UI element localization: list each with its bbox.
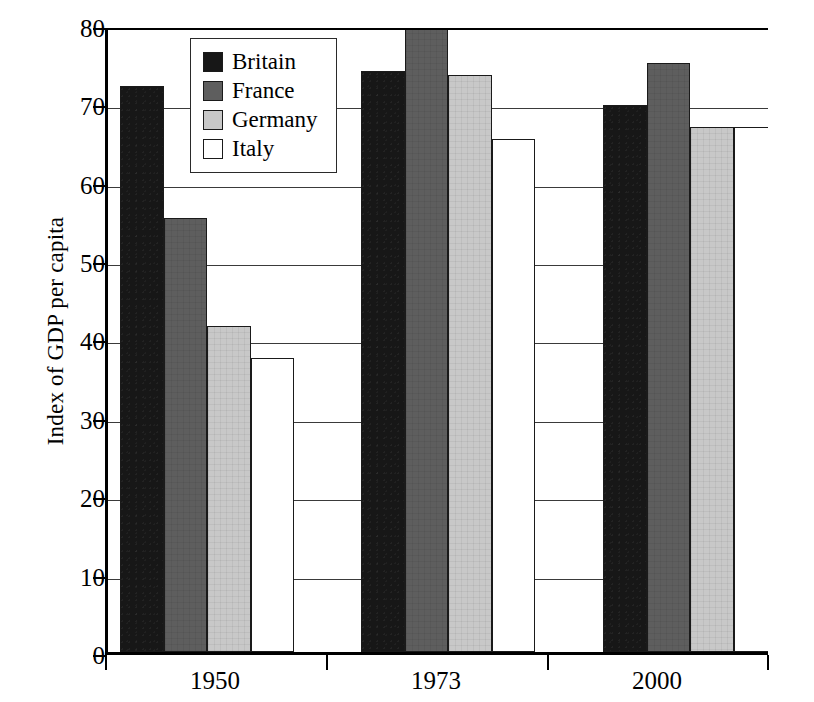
legend-item-italy: Italy bbox=[203, 134, 326, 163]
legend-item-france: France bbox=[203, 76, 326, 105]
y-tick-label: 70 bbox=[43, 94, 105, 119]
bar-italy-2000 bbox=[734, 127, 769, 652]
y-tick-label: 20 bbox=[43, 486, 105, 511]
legend-swatch-britain-icon bbox=[203, 52, 223, 72]
y-tick-label: 40 bbox=[43, 329, 105, 354]
bar-italy-1950 bbox=[251, 358, 295, 652]
bar-germany-2000 bbox=[690, 127, 734, 652]
bar-france-1950 bbox=[164, 218, 208, 652]
legend-swatch-germany-icon bbox=[203, 110, 223, 130]
bar-britain-1973 bbox=[361, 71, 405, 652]
legend-label: Italy bbox=[232, 137, 274, 160]
legend: Britain France Germany Italy bbox=[190, 38, 337, 173]
legend-label: France bbox=[232, 79, 295, 102]
bar-chart: Index of GDP per capita 80 70 60 50 40 3… bbox=[0, 0, 814, 702]
y-tick-label: 80 bbox=[43, 16, 105, 41]
x-tick-label-1950: 1950 bbox=[140, 668, 290, 693]
bar-germany-1950 bbox=[207, 326, 251, 652]
y-axis: 80 70 60 50 40 30 20 10 0 bbox=[0, 0, 105, 702]
y-tick-label: 30 bbox=[43, 408, 105, 433]
bar-france-1973 bbox=[405, 30, 449, 652]
legend-item-britain: Britain bbox=[203, 47, 326, 76]
bar-france-2000 bbox=[647, 63, 691, 652]
bar-britain-1950 bbox=[120, 86, 164, 652]
x-tick-mark bbox=[767, 655, 769, 670]
legend-swatch-italy-icon bbox=[203, 139, 223, 159]
x-tick-mark bbox=[326, 655, 328, 670]
legend-item-germany: Germany bbox=[203, 105, 326, 134]
y-tick-label: 50 bbox=[43, 251, 105, 276]
y-tick-label: 60 bbox=[43, 173, 105, 198]
legend-swatch-france-icon bbox=[203, 81, 223, 101]
bar-britain-2000 bbox=[603, 105, 647, 652]
x-tick-mark bbox=[105, 655, 107, 670]
y-tick-label: 0 bbox=[43, 643, 105, 668]
legend-label: Germany bbox=[232, 108, 318, 131]
y-tick-label: 10 bbox=[43, 565, 105, 590]
bar-italy-1973 bbox=[492, 139, 536, 652]
bar-germany-1973 bbox=[448, 75, 492, 652]
x-tick-label-2000: 2000 bbox=[582, 668, 732, 693]
x-tick-mark bbox=[547, 655, 549, 670]
legend-label: Britain bbox=[232, 50, 296, 73]
x-tick-label-1973: 1973 bbox=[361, 668, 511, 693]
